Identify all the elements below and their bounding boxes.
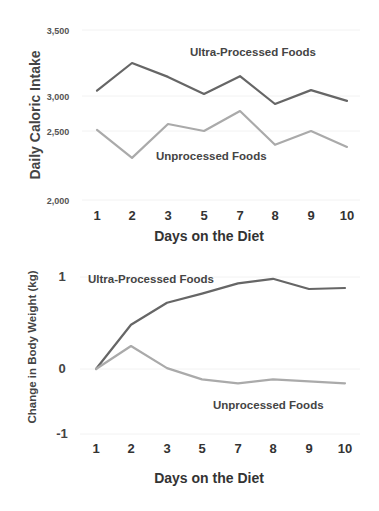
body-weight-y-tick-label: 0 — [58, 361, 65, 376]
caloric-intake-x-tick-label: 7 — [236, 208, 243, 223]
body-weight-x-axis-title: Days on the Diet — [154, 470, 264, 486]
caloric-intake-y-tick-label: 2,500 — [47, 127, 70, 137]
body-weight-x-ticks: 123578910 — [92, 441, 352, 456]
body-weight-y-tick-label: 1 — [58, 269, 65, 284]
caloric-intake-line-ultra-processed-foods — [97, 63, 347, 104]
body-weight-y-tick-label: -1 — [56, 426, 68, 441]
caloric-intake-x-axis-title: Days on the Diet — [154, 228, 264, 244]
caloric-intake-x-tick-label: 1 — [93, 208, 100, 223]
caloric-intake-y-tick-label: 3,500 — [47, 26, 70, 36]
body-weight-label-ultra-processed: Ultra-Processed Foods — [88, 273, 214, 285]
body-weight-y-axis-title: Change in Body Weight (kg) — [26, 270, 38, 423]
body-weight-line-unprocessed-foods — [96, 346, 345, 383]
caloric-intake-x-tick-label: 3 — [164, 208, 171, 223]
caloric-intake-chart: 3,5003,0002,5002,000 Daily Caloric Intak… — [27, 26, 360, 244]
caloric-intake-label-ultra-processed: Ultra-Processed Foods — [190, 46, 316, 58]
body-weight-x-tick-label: 1 — [92, 441, 99, 456]
caloric-intake-x-tick-label: 8 — [271, 208, 278, 223]
caloric-intake-x-ticks: 123578910 — [93, 208, 354, 223]
caloric-intake-y-axis-title: Daily Caloric Intake — [27, 50, 43, 179]
body-weight-line-ultra-processed-foods — [96, 279, 345, 369]
body-weight-y-ticks: 10-1 — [56, 269, 68, 441]
caloric-intake-x-tick-label: 9 — [307, 208, 314, 223]
body-weight-x-tick-label: 10 — [338, 441, 352, 456]
body-weight-x-tick-label: 2 — [127, 441, 134, 456]
caloric-intake-x-tick-label: 5 — [200, 208, 207, 223]
caloric-intake-lines — [97, 63, 347, 158]
caloric-intake-y-tick-label: 2,000 — [47, 196, 70, 206]
body-weight-x-tick-label: 3 — [163, 441, 170, 456]
body-weight-x-tick-label: 9 — [305, 441, 312, 456]
body-weight-lines — [96, 279, 345, 384]
body-weight-x-tick-label: 8 — [269, 441, 276, 456]
caloric-intake-label-unprocessed: Unprocessed Foods — [156, 150, 267, 162]
caloric-intake-x-tick-label: 10 — [340, 208, 354, 223]
caloric-intake-y-ticks: 3,5003,0002,5002,000 — [47, 26, 70, 206]
body-weight-x-tick-label: 5 — [198, 441, 205, 456]
body-weight-chart: 10-1 Change in Body Weight (kg) Ultra-Pr… — [26, 269, 360, 486]
caloric-intake-y-tick-label: 3,000 — [47, 92, 70, 102]
charts-canvas: 3,5003,0002,5002,000 Daily Caloric Intak… — [0, 0, 379, 511]
body-weight-x-tick-label: 7 — [234, 441, 241, 456]
body-weight-label-unprocessed: Unprocessed Foods — [213, 399, 324, 411]
caloric-intake-x-tick-label: 2 — [128, 208, 135, 223]
